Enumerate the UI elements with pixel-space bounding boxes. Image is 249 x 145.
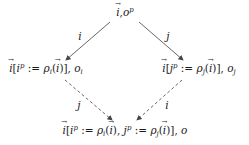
o-sub: i	[81, 68, 83, 76]
bracket-close: ],	[216, 62, 223, 74]
o-sup: p	[129, 6, 133, 14]
assign: :=	[177, 62, 196, 74]
edge-top-right	[139, 22, 183, 60]
vec-i: i	[162, 63, 165, 74]
edge-left-bottom	[65, 80, 112, 120]
edge-right-bottom	[137, 80, 182, 120]
mid-sep: ),	[113, 124, 124, 136]
o-sub: j	[234, 68, 236, 76]
vec-i: i	[116, 7, 119, 18]
assign: :=	[24, 62, 43, 74]
bracket-close: )],	[166, 124, 178, 136]
node-bottom: i[ip := ρi(i), jp := ρj(i)], o	[63, 125, 188, 138]
vec-i-arg: i	[56, 63, 59, 74]
vec-i-arg1: i	[109, 125, 112, 136]
o-var: o	[181, 124, 187, 136]
edge-top-left	[66, 22, 110, 60]
node-right: i[jp := ρj(i)], oj	[162, 63, 235, 76]
edge-label-top-left: i	[78, 31, 81, 42]
node-top: i,op	[116, 7, 134, 18]
vec-i-arg: i	[209, 63, 212, 74]
node-left: i[ip := ρi(i)], oi	[9, 63, 83, 76]
assign1: :=	[78, 124, 97, 136]
edge-label-left-bottom: j	[77, 100, 80, 111]
bracket-close: ],	[63, 62, 70, 74]
vec-i: i	[9, 63, 12, 74]
edge-label-right-bottom: i	[165, 100, 168, 111]
vec-i-arg2: i	[163, 125, 166, 136]
assign2: :=	[131, 124, 150, 136]
vec-i: i	[63, 125, 66, 136]
edge-label-top-right: j	[166, 31, 169, 42]
